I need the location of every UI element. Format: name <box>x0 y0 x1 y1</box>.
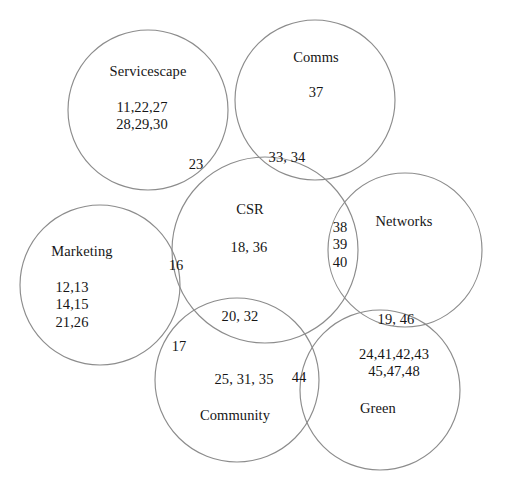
circle-marketing <box>20 205 180 365</box>
marketing-items-line-3: 21,26 <box>55 314 88 331</box>
label-comms-title: Comms <box>293 49 339 66</box>
label-green-title: Green <box>360 400 396 417</box>
circle-green <box>300 310 460 470</box>
label-intersection-marketing-csr: 16 <box>169 257 184 274</box>
label-intersection-networks-csr: 38 39 40 <box>333 219 348 271</box>
label-intersection-networks-green: 19, 46 <box>378 311 415 328</box>
label-marketing-items: 12,13 14,15 21,26 <box>55 279 88 331</box>
networks-csr-line-3: 40 <box>333 254 348 271</box>
networks-csr-line-1: 38 <box>333 219 348 236</box>
servicescape-items-line-2: 28,29,30 <box>116 116 168 133</box>
label-servicescape-items: 11,22,27 28,29,30 <box>116 99 168 134</box>
label-community-items: 25, 31, 35 <box>215 371 274 388</box>
label-servicescape-title: Servicescape <box>110 63 187 80</box>
label-comms-items: 37 <box>309 84 324 101</box>
label-community-title: Community <box>200 407 270 424</box>
venn-diagram: Servicescape 11,22,27 28,29,30 Comms 37 … <box>0 0 508 491</box>
label-intersection-marketing-community: 17 <box>172 338 187 355</box>
networks-csr-line-2: 39 <box>333 236 348 253</box>
label-green-items: 24,41,42,43 45,47,48 <box>359 346 429 381</box>
marketing-items-line-1: 12,13 <box>55 279 88 296</box>
label-csr-items: 18, 36 <box>231 239 268 256</box>
green-items-line-1: 24,41,42,43 <box>359 346 429 363</box>
label-intersection-green-community: 44 <box>292 369 307 386</box>
label-csr-title: CSR <box>236 201 264 218</box>
label-intersection-community-csr: 20, 32 <box>222 308 259 325</box>
marketing-items-line-2: 14,15 <box>55 296 88 313</box>
label-marketing-title: Marketing <box>51 243 112 260</box>
label-networks-title: Networks <box>375 213 432 230</box>
label-intersection-servicescape-csr: 23 <box>189 156 204 173</box>
circle-networks <box>328 173 482 327</box>
label-intersection-comms-csr: 33, 34 <box>269 149 306 166</box>
green-items-line-2: 45,47,48 <box>359 363 429 380</box>
servicescape-items-line-1: 11,22,27 <box>116 99 168 116</box>
